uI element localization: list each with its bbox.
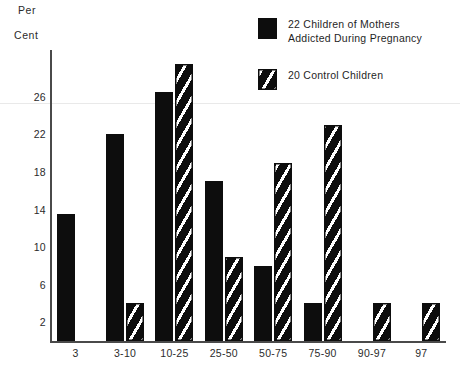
bar-control bbox=[175, 64, 193, 341]
x-tick-label: 3 bbox=[73, 347, 79, 359]
bar-control bbox=[274, 163, 292, 341]
x-tick-label: 10-25 bbox=[160, 347, 188, 359]
bar-addicted bbox=[155, 92, 173, 341]
x-axis-line bbox=[50, 341, 446, 343]
y-tick-label: 22 bbox=[2, 128, 46, 140]
bar-control bbox=[373, 303, 391, 341]
x-tick-label: 25-50 bbox=[210, 347, 238, 359]
legend-label-control: 20 Control Children bbox=[288, 69, 383, 83]
bar-addicted bbox=[57, 214, 75, 341]
y-tick-label: 2 bbox=[2, 316, 46, 328]
legend-item-addicted: 22 Children of Mothers Addicted During P… bbox=[258, 18, 458, 45]
bar-addicted bbox=[205, 181, 223, 341]
y-tick-label: 10 bbox=[2, 241, 46, 253]
legend-label-addicted-line1: 22 Children of Mothers bbox=[288, 18, 422, 32]
legend-item-control: 20 Control Children bbox=[258, 69, 458, 90]
y-tick-label: 18 bbox=[2, 166, 46, 178]
legend-swatch-solid-icon bbox=[258, 18, 277, 39]
y-tick-label: 26 bbox=[2, 91, 46, 103]
chart-container: Per Cent 261014182226 22 Children of Mot… bbox=[0, 0, 460, 373]
y-tick-label: 14 bbox=[2, 204, 46, 216]
x-tick-label: 75-90 bbox=[308, 347, 336, 359]
x-tick-label: 90-97 bbox=[358, 347, 386, 359]
bar-group bbox=[57, 50, 95, 341]
bar-control bbox=[126, 303, 144, 341]
legend-swatch-hatched-icon bbox=[258, 69, 277, 90]
x-tick-label: 97 bbox=[415, 347, 427, 359]
legend-label-addicted: 22 Children of Mothers Addicted During P… bbox=[288, 18, 422, 45]
bar-group bbox=[155, 50, 193, 341]
bar-control bbox=[422, 303, 440, 341]
legend: 22 Children of Mothers Addicted During P… bbox=[258, 18, 458, 114]
bar-group bbox=[106, 50, 144, 341]
bar-control bbox=[225, 257, 243, 341]
x-tick-label: 3-10 bbox=[114, 347, 136, 359]
bar-addicted bbox=[106, 134, 124, 341]
bar-addicted bbox=[254, 266, 272, 341]
bar-control bbox=[324, 125, 342, 341]
x-tick-label: 50-75 bbox=[259, 347, 287, 359]
bar-addicted bbox=[304, 303, 322, 341]
legend-label-addicted-line2: Addicted During Pregnancy bbox=[288, 32, 422, 46]
bar-group bbox=[205, 50, 243, 341]
y-axis-tick-labels: 261014182226 bbox=[0, 0, 46, 373]
y-tick-label: 6 bbox=[2, 279, 46, 291]
legend-label-control-line1: 20 Control Children bbox=[288, 69, 383, 83]
